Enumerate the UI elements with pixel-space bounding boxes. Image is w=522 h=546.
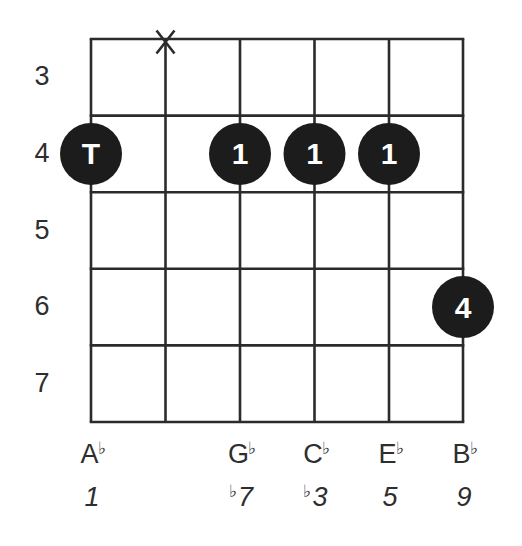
svg-text:1: 1: [381, 137, 398, 170]
note-name: G♭: [212, 439, 272, 473]
fret-number: 4: [22, 138, 62, 168]
interval-degree: 9: [434, 482, 494, 512]
fretboard-grid: [90, 39, 465, 422]
fret-number: 5: [22, 215, 62, 245]
interval-degree: 1: [62, 482, 122, 512]
fret-number: 7: [22, 368, 62, 398]
note-name: A♭: [63, 439, 123, 473]
fret-number: 3: [22, 61, 62, 91]
note-name: C♭: [287, 439, 347, 473]
svg-text:1: 1: [306, 137, 323, 170]
finger-dots: T1114: [60, 123, 494, 338]
svg-text:4: 4: [455, 291, 472, 324]
finger-dot-1: 1: [358, 123, 420, 185]
interval-degree: 5: [360, 482, 420, 512]
finger-dot-1: 1: [209, 123, 271, 185]
thumb-dot: T: [60, 123, 122, 185]
fret-number: 6: [22, 291, 62, 321]
interval-degree: ♭7: [211, 482, 271, 516]
interval-degree: ♭3: [286, 482, 346, 516]
svg-text:T: T: [82, 137, 100, 170]
note-name: B♭: [435, 439, 495, 473]
finger-dot-1: 1: [284, 123, 346, 185]
note-name: E♭: [361, 439, 421, 473]
finger-dot-4: 4: [432, 276, 494, 338]
svg-text:1: 1: [232, 137, 249, 170]
